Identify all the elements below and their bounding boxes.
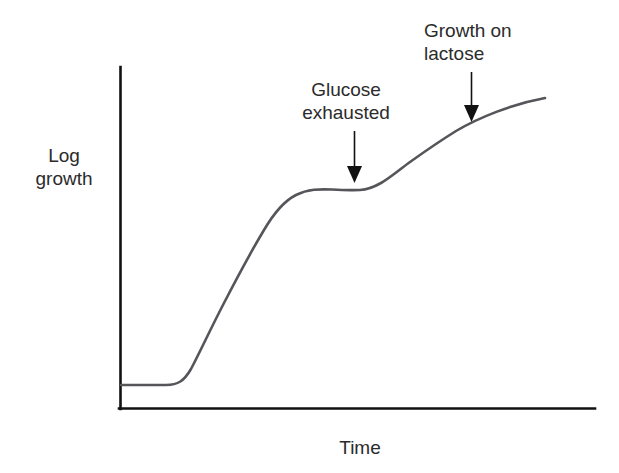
growth-on-lactose-arrow (464, 72, 479, 122)
diauxic-growth-curve (121, 98, 545, 385)
glucose-arrow-head (347, 166, 362, 183)
diauxic-growth-figure: Log growth Time Glucose exhausted Growth… (0, 0, 619, 473)
annotation-glucose-exhausted-label: Glucose exhausted (281, 78, 411, 124)
x-axis-label: Time (300, 436, 420, 459)
y-axis-label: Log growth (18, 144, 110, 190)
annotation-growth-on-lactose-label: Growth on lactose (424, 19, 554, 65)
growth-curve-chart (0, 0, 619, 473)
glucose-exhausted-arrow (347, 131, 362, 183)
